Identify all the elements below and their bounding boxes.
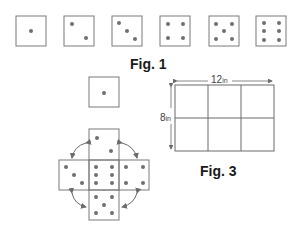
arrow-bottom-left-icon [72,193,86,207]
net-right-face [119,160,149,190]
net-top-face [89,129,119,160]
die-face-4 [160,16,190,46]
width-dimension-label: 12in [211,74,228,85]
arrow-bottom-right-icon [122,193,137,207]
height-dimension-label: 8in [160,112,171,123]
rotation-arrows [72,143,137,207]
fig3-grid [175,85,274,151]
fig3-caption: Fig. 3 [200,163,237,179]
net-pips [64,136,145,215]
fig1-pips [29,21,281,42]
fig1-dice-row [16,16,286,46]
arrow-top-left-icon [72,143,86,158]
height-unit: in [166,115,171,122]
width-value: 12 [211,74,222,85]
dice-diagram [0,0,297,229]
die-face-6 [256,16,286,46]
arrow-top-right-icon [122,143,137,158]
net-center-face [89,160,119,190]
fig1-caption: Fig. 1 [130,56,167,72]
dimension-arrows [171,81,272,149]
die-face-2 [64,16,94,46]
width-unit: in [222,77,227,84]
